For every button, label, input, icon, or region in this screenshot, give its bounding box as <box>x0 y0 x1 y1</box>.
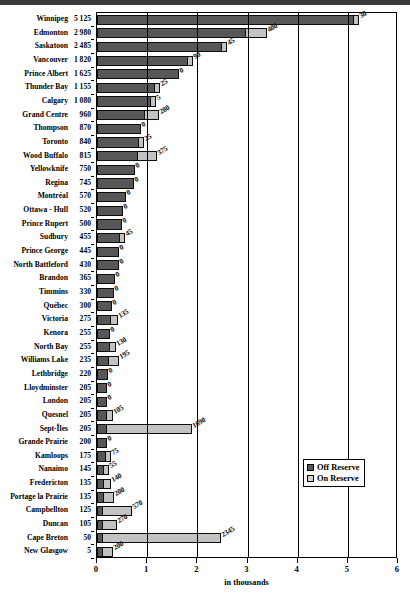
bar-segment-off-reserve[interactable] <box>97 110 145 120</box>
bar-row[interactable]: 135 <box>97 313 396 327</box>
bar-row[interactable]: 0 <box>97 218 396 232</box>
bar-segment-off-reserve[interactable] <box>97 233 120 243</box>
stacked-bar[interactable] <box>97 315 118 325</box>
bar-segment-off-reserve[interactable] <box>97 410 107 420</box>
bar-segment-off-reserve[interactable] <box>97 219 122 229</box>
bar-segment-off-reserve[interactable] <box>97 397 107 407</box>
bar-segment-off-reserve[interactable] <box>97 192 126 202</box>
bar-segment-on-reserve[interactable] <box>107 410 112 420</box>
bar-segment-on-reserve[interactable] <box>246 28 266 38</box>
bar-segment-on-reserve[interactable] <box>354 15 359 25</box>
stacked-bar[interactable] <box>97 383 107 393</box>
stacked-bar[interactable] <box>97 479 111 489</box>
bar-segment-off-reserve[interactable] <box>97 178 134 188</box>
stacked-bar[interactable] <box>97 28 267 38</box>
bar-row[interactable]: 0 <box>97 190 396 204</box>
bar-segment-off-reserve[interactable] <box>97 137 139 147</box>
stacked-bar[interactable] <box>97 137 144 147</box>
bar-row[interactable]: 25 <box>97 136 396 150</box>
bar-row[interactable]: 195 <box>97 354 396 368</box>
bar-segment-on-reserve[interactable] <box>104 492 114 502</box>
stacked-bar[interactable] <box>97 356 119 366</box>
bar-row[interactable]: 0 <box>97 368 396 382</box>
stacked-bar[interactable] <box>97 15 359 25</box>
bar-segment-off-reserve[interactable] <box>97 356 109 366</box>
bar-segment-off-reserve[interactable] <box>97 165 135 175</box>
stacked-bar[interactable] <box>97 42 227 52</box>
bar-segment-off-reserve[interactable] <box>97 124 141 134</box>
stacked-bar[interactable] <box>97 301 112 311</box>
bar-segment-off-reserve[interactable] <box>97 28 246 38</box>
bar-segment-on-reserve[interactable] <box>222 42 227 52</box>
bar-row[interactable]: 5 <box>97 95 396 109</box>
stacked-bar[interactable] <box>97 329 110 339</box>
bar-segment-off-reserve[interactable] <box>97 15 354 25</box>
stacked-bar[interactable] <box>97 465 109 475</box>
bar-segment-off-reserve[interactable] <box>97 56 188 66</box>
bar-row[interactable]: 570 <box>97 504 396 518</box>
bar-segment-off-reserve[interactable] <box>97 96 151 106</box>
bar-row[interactable]: 0 <box>97 300 396 314</box>
bar-row[interactable]: 105 <box>97 409 396 423</box>
stacked-bar[interactable] <box>97 110 159 120</box>
bar-segment-on-reserve[interactable] <box>107 424 192 434</box>
stacked-bar[interactable] <box>97 178 134 188</box>
bar-segment-off-reserve[interactable] <box>97 438 107 448</box>
bar-row[interactable]: 45 <box>97 40 396 54</box>
bar-segment-off-reserve[interactable] <box>97 274 115 284</box>
bar-segment-off-reserve[interactable] <box>97 329 110 339</box>
bar-row[interactable]: 90 <box>97 54 396 68</box>
bar-row[interactable]: 0 <box>97 245 396 259</box>
bar-segment-off-reserve[interactable] <box>97 369 108 379</box>
bar-row[interactable]: 0 <box>97 204 396 218</box>
bar-segment-off-reserve[interactable] <box>97 424 107 434</box>
bar-row[interactable]: 2345 <box>97 532 396 546</box>
bar-row[interactable]: 0 <box>97 163 396 177</box>
bar-segment-off-reserve[interactable] <box>97 465 104 475</box>
bar-row[interactable]: 0 <box>97 382 396 396</box>
bar-segment-on-reserve[interactable] <box>104 465 109 475</box>
stacked-bar[interactable] <box>97 247 119 257</box>
bar-segment-off-reserve[interactable] <box>97 42 222 52</box>
bar-row[interactable]: 0 <box>97 177 396 191</box>
stacked-bar[interactable] <box>97 274 115 284</box>
stacked-bar[interactable] <box>97 69 179 79</box>
bar-row[interactable]: 0 <box>97 436 396 450</box>
bar-segment-on-reserve[interactable] <box>188 56 193 66</box>
bar-row[interactable]: 375 <box>97 150 396 164</box>
bar-segment-off-reserve[interactable] <box>97 247 119 257</box>
legend-item-off-reserve[interactable]: Off Reserve <box>307 462 360 473</box>
bar-segment-off-reserve[interactable] <box>97 301 112 311</box>
stacked-bar[interactable] <box>97 192 126 202</box>
legend-item-on-reserve[interactable]: On Reserve <box>307 473 360 484</box>
stacked-bar[interactable] <box>97 520 117 530</box>
stacked-bar[interactable] <box>97 397 107 407</box>
stacked-bar[interactable] <box>97 219 122 229</box>
bar-segment-on-reserve[interactable] <box>139 137 144 147</box>
stacked-bar[interactable] <box>97 83 160 93</box>
stacked-bar[interactable] <box>97 124 141 134</box>
bar-segment-on-reserve[interactable] <box>109 356 119 366</box>
bar-row[interactable]: 45 <box>97 231 396 245</box>
bar-row[interactable]: 0 <box>97 68 396 82</box>
bar-row[interactable]: 200 <box>97 545 396 559</box>
bar-segment-off-reserve[interactable] <box>97 479 104 489</box>
bar-row[interactable]: 30 <box>97 13 396 27</box>
bar-row[interactable]: 400 <box>97 27 396 41</box>
bar-segment-off-reserve[interactable] <box>97 492 104 502</box>
bar-row[interactable]: 25 <box>97 81 396 95</box>
bar-segment-on-reserve[interactable] <box>103 520 117 530</box>
stacked-bar[interactable] <box>97 288 114 298</box>
bar-segment-on-reserve[interactable] <box>103 547 113 557</box>
bar-row[interactable]: 0 <box>97 327 396 341</box>
stacked-bar[interactable] <box>97 206 123 216</box>
bar-segment-off-reserve[interactable] <box>97 69 179 79</box>
bar-segment-off-reserve[interactable] <box>97 206 123 216</box>
stacked-bar[interactable] <box>97 492 114 502</box>
stacked-bar[interactable] <box>97 369 108 379</box>
bar-row[interactable]: 130 <box>97 341 396 355</box>
bar-segment-off-reserve[interactable] <box>97 288 114 298</box>
bar-row[interactable]: 0 <box>97 259 396 273</box>
bar-segment-off-reserve[interactable] <box>97 383 107 393</box>
stacked-bar[interactable] <box>97 547 113 557</box>
